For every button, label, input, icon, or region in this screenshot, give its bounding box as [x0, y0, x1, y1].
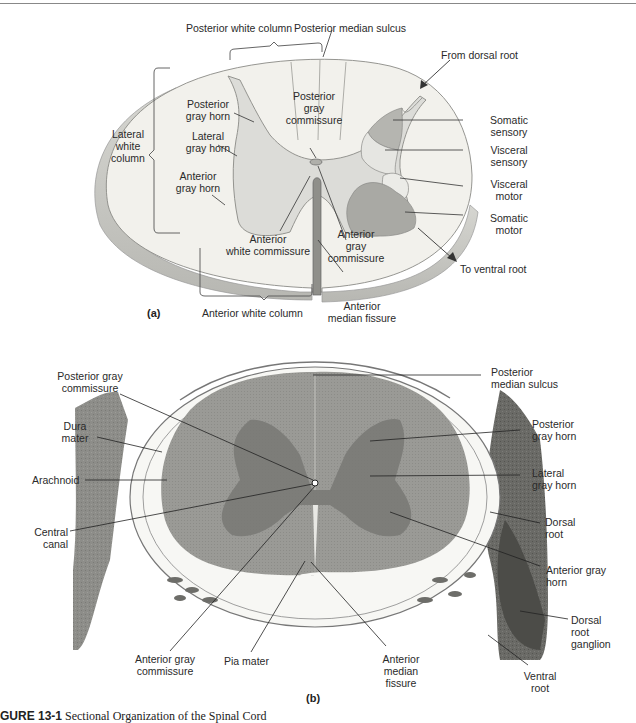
label-dorsal-root-ganglion: Dorsal root ganglion	[571, 614, 611, 650]
label-line: Anterior	[322, 300, 402, 312]
label-line: median	[376, 665, 426, 677]
label-posterior-gray-horn-b: Posterior gray horn	[532, 418, 576, 442]
label-visceral-motor: Visceral motor	[484, 178, 534, 202]
label-line: root	[545, 528, 575, 540]
label-line: sensory	[484, 126, 534, 138]
figure-number: GURE 13-1	[0, 709, 62, 723]
label-line: Ventral	[520, 670, 560, 682]
label-line: sensory	[484, 156, 534, 168]
arrow-from-dorsal-root	[420, 60, 450, 89]
label-line: commissure	[120, 665, 210, 677]
label-anterior-white-column: Anterior white column	[202, 307, 303, 319]
label-line: Anterior gray	[120, 653, 210, 665]
figure-title: Sectional Organization of the Spinal Cor…	[65, 709, 266, 723]
label-line: Lateral	[178, 130, 238, 142]
label-line: Anterior	[376, 653, 426, 665]
label-line: motor	[484, 190, 534, 202]
label-line: commissure	[326, 252, 386, 264]
label-line: Dura	[55, 420, 95, 432]
label-ventral-root: Ventral root	[520, 670, 560, 694]
label-anterior-gray-commissure-b: Anterior gray commissure	[120, 653, 210, 677]
label-line: gray horn	[178, 142, 238, 154]
label-line: Posterior	[532, 418, 576, 430]
label-line: Dorsal	[545, 516, 575, 528]
label-lateral-gray-horn-a: Lateral gray horn	[178, 130, 238, 154]
label-anterior-gray-horn-b: Anterior gray horn	[546, 564, 606, 588]
label-line: median fissure	[322, 312, 402, 324]
figure-caption: GURE 13-1 Sectional Organization of the …	[0, 709, 266, 723]
label-line: median sulcus	[491, 378, 558, 390]
histology-photo	[73, 362, 548, 660]
label-line: gray horn	[532, 430, 576, 442]
panel-tag-a: (a)	[147, 307, 160, 319]
label-line: Visceral	[484, 178, 534, 190]
label-pia-mater: Pia mater	[224, 655, 269, 667]
label-line: Lateral	[532, 467, 576, 479]
label-dorsal-root: Dorsal root	[545, 516, 575, 540]
label-line: gray horn	[532, 479, 576, 491]
label-line: mater	[55, 432, 95, 444]
label-anterior-white-commissure: Anterior white commissure	[218, 233, 318, 257]
label-posterior-gray-commissure-a: Posterior gray commissure	[284, 90, 344, 126]
label-anterior-median-fissure-b: Anterior median fissure	[376, 653, 426, 689]
label-line: Somatic	[484, 212, 534, 224]
label-line: Somatic	[484, 114, 534, 126]
label-posterior-median-sulcus: Posterior median sulcus	[294, 22, 406, 34]
label-posterior-gray-commissure-b: Posterior gray commissure	[50, 370, 130, 394]
label-posterior-median-sulcus-b: Posterior median sulcus	[491, 366, 558, 390]
label-line: Anterior gray	[546, 564, 606, 576]
label-line: horn	[546, 576, 606, 588]
label-line: Anterior	[218, 233, 318, 245]
label-anterior-gray-horn-a: Anterior gray horn	[168, 170, 228, 194]
label-line: Lateral	[108, 128, 148, 140]
label-arachnoid: Arachnoid	[32, 474, 79, 486]
label-line: ganglion	[571, 638, 611, 650]
label-visceral-sensory: Visceral sensory	[484, 144, 534, 168]
label-line: motor	[484, 224, 534, 236]
label-to-ventral-root: To ventral root	[460, 263, 527, 275]
label-line: Posterior	[178, 98, 238, 110]
label-line: Anterior	[326, 228, 386, 240]
label-line: gray	[284, 102, 344, 114]
label-posterior-gray-horn-a: Posterior gray horn	[178, 98, 238, 122]
label-line: Posterior	[491, 366, 558, 378]
label-somatic-sensory: Somatic sensory	[484, 114, 534, 138]
label-posterior-white-column: Posterior white column	[186, 22, 292, 34]
label-line: Dorsal	[571, 614, 611, 626]
label-line: white	[108, 140, 148, 152]
label-line: Posterior	[284, 90, 344, 102]
label-line: gray horn	[168, 182, 228, 194]
label-from-dorsal-root: From dorsal root	[441, 49, 518, 61]
label-line: commissure	[284, 114, 344, 126]
label-lateral-white-column: Lateral white column	[108, 128, 148, 164]
label-line: root	[571, 626, 611, 638]
label-somatic-motor: Somatic motor	[484, 212, 534, 236]
label-line: Posterior gray	[50, 370, 130, 382]
label-line: white commissure	[218, 245, 318, 257]
label-line: root	[520, 682, 560, 694]
label-lateral-gray-horn-b: Lateral gray horn	[532, 467, 576, 491]
label-line: canal	[20, 538, 68, 550]
label-anterior-median-fissure-a: Anterior median fissure	[322, 300, 402, 324]
label-line: fissure	[376, 677, 426, 689]
label-line: gray	[326, 240, 386, 252]
label-line: commissure	[50, 382, 130, 394]
label-line: Central	[20, 526, 68, 538]
label-dura-mater: Dura mater	[55, 420, 95, 444]
label-central-canal: Central canal	[20, 526, 68, 550]
label-anterior-gray-commissure-a: Anterior gray commissure	[326, 228, 386, 264]
label-line: gray horn	[178, 110, 238, 122]
label-line: Visceral	[484, 144, 534, 156]
label-line: Anterior	[168, 170, 228, 182]
panel-tag-b: (b)	[306, 692, 320, 704]
label-line: column	[108, 152, 148, 164]
central-canal	[310, 159, 322, 165]
